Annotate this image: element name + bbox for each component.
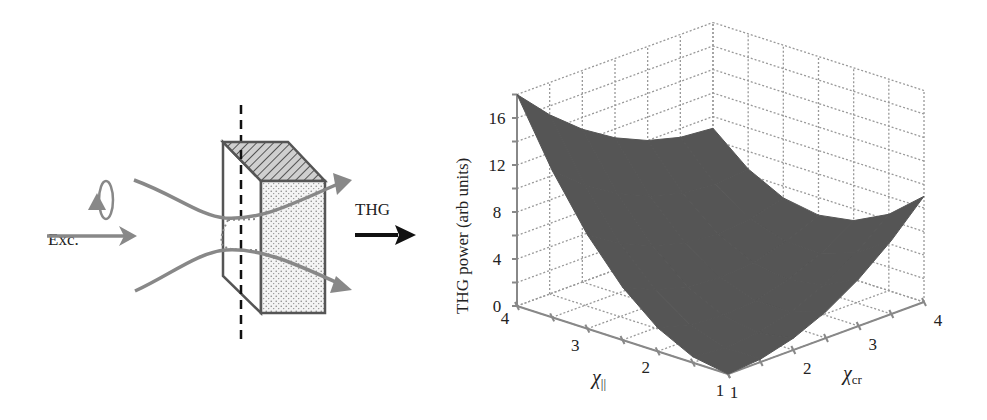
sample-side-face	[261, 181, 325, 313]
thg-surface-plot: 048121612341234 THG power (arb units) χ|…	[453, 23, 943, 403]
y-axis-label: χcr	[841, 362, 863, 387]
y-tick-label: 2	[803, 359, 812, 378]
thg-schematic: Exc. THG	[47, 105, 416, 345]
thg-surface	[517, 95, 924, 375]
figure: Exc. THG 048121612341234 THG power (arb …	[0, 0, 987, 420]
polarization-arrow-icon	[88, 193, 106, 210]
beam-upper-arrowhead	[333, 173, 352, 195]
y-tick-label: 1	[730, 383, 739, 402]
x-tick-label: 3	[571, 336, 580, 355]
z-tick-label: 8	[493, 203, 502, 222]
polarization-ellipse-icon	[99, 181, 113, 219]
x-axis-label-sub: ||	[601, 376, 606, 391]
y-axis-label-sub: cr	[852, 372, 863, 387]
y-tick-label: 4	[934, 311, 943, 330]
thg-output-label: THG	[355, 200, 390, 219]
z-tick-label: 16	[489, 109, 506, 128]
y-tick-label: 3	[868, 335, 877, 354]
x-axis-label: χ||	[590, 366, 606, 391]
x-tick-label: 4	[501, 309, 510, 328]
x-tick-label: 2	[641, 358, 650, 377]
z-tick-label: 4	[493, 250, 502, 269]
beam-lower-arrowhead	[330, 276, 352, 293]
x-tick-label: 1	[716, 381, 725, 400]
z-axis-label: THG power (arb units)	[453, 158, 472, 314]
excitation-label: Exc.	[48, 230, 79, 249]
thg-arrowhead	[395, 225, 416, 245]
z-tick-label: 12	[489, 156, 506, 175]
